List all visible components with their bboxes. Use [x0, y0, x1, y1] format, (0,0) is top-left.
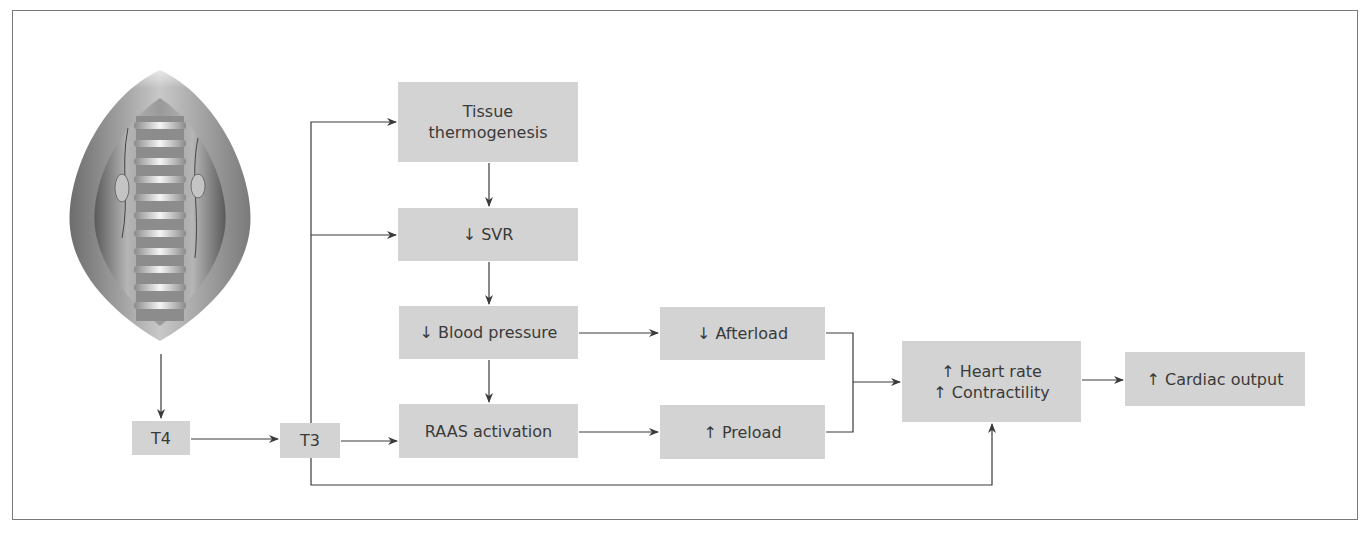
node-raas-activation: RAAS activation — [399, 404, 578, 458]
node-svr-label: ↓ SVR — [463, 224, 514, 245]
node-blood-pressure: ↓ Blood pressure — [399, 306, 578, 359]
node-hr-line2: ↑ Contractility — [933, 382, 1049, 403]
node-t3: T3 — [280, 423, 340, 458]
node-co-label: ↑ Cardiac output — [1147, 369, 1284, 390]
node-afterload-label: ↓ Afterload — [697, 323, 788, 344]
node-t4: T4 — [132, 421, 190, 455]
node-t3-label: T3 — [300, 430, 320, 451]
node-cardiac-output: ↑ Cardiac output — [1125, 352, 1305, 406]
node-tissue-line2: thermogenesis — [428, 122, 547, 143]
node-t4-label: T4 — [151, 428, 171, 449]
node-raas-label: RAAS activation — [425, 421, 552, 442]
node-afterload: ↓ Afterload — [660, 307, 825, 360]
node-tissue-thermogenesis: Tissue thermogenesis — [398, 82, 578, 162]
node-tissue-line1: Tissue — [463, 101, 513, 122]
node-hr-line1: ↑ Heart rate — [941, 361, 1042, 382]
node-preload-label: ↑ Preload — [703, 422, 781, 443]
node-svr: ↓ SVR — [398, 208, 578, 261]
node-heart-rate-contractility: ↑ Heart rate ↑ Contractility — [902, 341, 1081, 422]
node-preload: ↑ Preload — [660, 405, 825, 459]
node-bp-label: ↓ Blood pressure — [420, 322, 558, 343]
